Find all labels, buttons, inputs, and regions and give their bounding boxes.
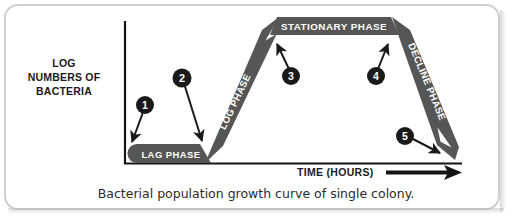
stationary-phase-label: STATIONARY PHASE [281, 21, 387, 32]
marker-3-leader [277, 44, 289, 69]
y-axis-title-line-2: NUMBERS OF [14, 70, 114, 84]
marker-3: 3 [277, 44, 300, 85]
marker-4: 4 [367, 44, 388, 85]
marker-3-number: 3 [288, 70, 294, 82]
bacterial-growth-curve-figure: LOG PHASE STATIONARY PHASE DECLINE PHASE… [0, 0, 512, 224]
figure-caption: Bacterial population growth curve of sin… [0, 186, 512, 201]
marker-2: 2 [173, 69, 203, 142]
y-axis-title-line-3: BACTERIA [14, 84, 114, 98]
marker-2-number: 2 [179, 72, 185, 84]
marker-1-number: 1 [142, 99, 148, 111]
log-phase-band: LOG PHASE [205, 17, 280, 163]
marker-4-number: 4 [373, 70, 379, 82]
log-phase-label: LOG PHASE [217, 72, 253, 131]
marker-1: 1 [132, 96, 154, 142]
lag-phase-label: LAG PHASE [141, 149, 200, 160]
y-axis-title-line-1: LOG [14, 56, 114, 70]
x-axis-title-group: TIME (HOURS) [297, 165, 462, 180]
y-axis-title: LOG NUMBERS OF BACTERIA [14, 56, 114, 98]
marker-4-leader [378, 44, 388, 69]
stationary-phase-band: STATIONARY PHASE [270, 17, 399, 35]
x-axis-title: TIME (HOURS) [297, 166, 374, 178]
lag-phase-band: LAG PHASE [128, 144, 211, 163]
marker-5-number: 5 [402, 130, 408, 142]
marker-2-leader [183, 80, 202, 141]
